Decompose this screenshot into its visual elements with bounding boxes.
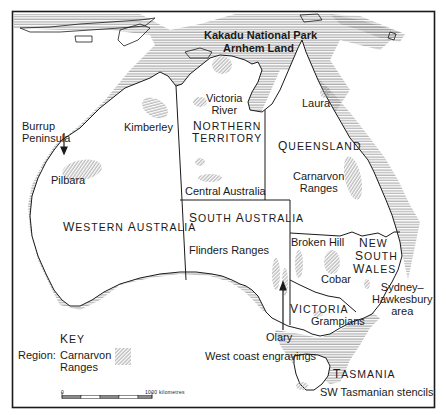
region-cobar [324,250,340,274]
state-label-queensland: QUEENSLAND [278,140,362,152]
region-central-australia-b [198,174,222,182]
site-label-carnarvon-ranges: CarnarvonRanges [293,170,344,194]
region-flinders [272,258,280,290]
state-label-new-south-wales: NEW SOUTH WALES [352,237,398,276]
region-sw-tas [296,382,308,390]
scale-start-label: 0 [61,386,64,398]
region-sydney [364,279,370,289]
region-broken-hill [295,250,303,278]
site-label-kakadu: Kakadu National Park [204,29,317,41]
site-label-flinders-ranges: Flinders Ranges [189,244,269,256]
site-label-kimberley: Kimberley [124,121,173,133]
site-label-grampians: Grampians [311,315,365,327]
state-label-northern-territory: NORTHERN TERRITORY [192,120,262,144]
site-label-olary: Olary [266,331,292,343]
scale-bar [62,392,152,399]
region-arnhem [212,56,232,74]
key-example-label: CarnarvonRanges [60,349,111,373]
site-label-sydney-hawkesbury: Sydney–Hawkesburyarea [372,281,433,317]
site-label-west-coast-engravings: West coast engravings [205,350,316,362]
key-region-label: Region: [18,349,56,361]
region-central-australia-a [195,158,205,166]
site-label-cobar: Cobar [321,273,351,285]
site-label-arnhem-land: Arnhem Land [223,42,294,54]
region-victoria-river [193,97,207,107]
site-label-broken-hill: Broken Hill [291,236,344,248]
key-swatch [115,348,131,365]
site-label-sw-tasmanian-stencils: SW Tasmanian stencils [320,386,434,398]
site-label-victoria-river: VictoriaRiver [206,92,242,116]
site-label-central-australia: Central Australia [185,185,266,197]
scale-end-label: 1000 kilometres [145,386,185,398]
site-label-pilbara: Pilbara [51,174,85,186]
state-label-south-australia: SOUTH AUSTRALIA [189,212,304,224]
site-label-burrup-peninsula: BurrupPeninsula [22,120,70,144]
state-label-western-australia: WESTERN AUSTRALIA [63,221,196,233]
site-label-laura: Laura [302,97,330,109]
state-label-tasmania: TASMANIA [333,368,396,380]
state-label-victoria: VICTORIA [290,303,348,315]
key-title: KEY [60,333,85,345]
